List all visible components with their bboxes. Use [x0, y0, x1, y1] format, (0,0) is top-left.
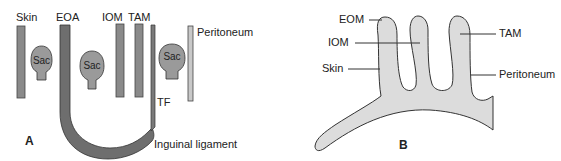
- label-eoa: EOA: [56, 12, 79, 23]
- peritoneum-layer: [188, 26, 193, 101]
- iom-layer: [116, 24, 124, 97]
- label-skin: Skin: [16, 12, 37, 23]
- panel-b-diagram: [280, 0, 561, 161]
- tam-layer: [135, 24, 143, 97]
- label-iom-b: IOM: [328, 37, 349, 48]
- label-iom: IOM: [102, 12, 123, 23]
- panel-b: EOM IOM Skin TAM Peritoneum B: [280, 0, 561, 161]
- label-peritoneum: Peritoneum: [197, 27, 253, 38]
- sac-label-1: Sac: [31, 56, 52, 66]
- panel-a-diagram: [0, 0, 280, 161]
- skin-layer: [17, 26, 25, 98]
- label-tam-b: TAM: [499, 28, 521, 39]
- label-peritoneum-b: Peritoneum: [499, 69, 555, 80]
- transversalis-fascia-layer: [151, 25, 155, 131]
- panel-letter-b: B: [399, 139, 408, 151]
- label-skin-b: Skin: [322, 63, 343, 74]
- panel-a: Skin EOA IOM TAM Peritoneum TF Inguinal …: [0, 0, 280, 161]
- sac-label-2: Sac: [80, 61, 104, 71]
- label-inguinal-ligament: Inguinal ligament: [154, 139, 237, 150]
- label-tam: TAM: [128, 12, 150, 23]
- panel-letter-a: A: [25, 135, 34, 147]
- sac-label-3: Sac: [159, 52, 185, 62]
- label-eom: EOM: [339, 14, 364, 25]
- label-tf: TF: [157, 97, 170, 108]
